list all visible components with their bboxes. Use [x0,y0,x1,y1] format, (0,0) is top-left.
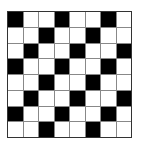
grid-cell-r4-c6 [101,75,116,90]
grid-cell-r6-c5 [86,107,101,122]
grid-cell-r7-c3 [55,122,70,137]
grid-cell-r6-c1 [24,107,39,122]
grid-cell-r4-c2 [39,75,54,90]
grid-cell-r3-c2 [39,59,54,74]
grid-cell-r6-c4 [70,107,85,122]
grid-cell-r0-c5 [86,12,101,27]
grid-cell-r3-c1 [24,59,39,74]
grid-cell-r1-c5 [86,28,101,43]
grid-cell-r0-c2 [39,12,54,27]
grid-cell-r1-c2 [39,28,54,43]
grid-cell-r4-c7 [117,75,132,90]
grid-cell-r2-c2 [39,44,54,59]
grid-cell-r3-c3 [55,59,70,74]
grid-cell-r2-c5 [86,44,101,59]
grid-cell-r2-c4 [70,44,85,59]
grid-cell-r6-c3 [55,107,70,122]
grid-cell-r3-c5 [86,59,101,74]
grid-cell-r7-c7 [117,122,132,137]
grid-cell-r2-c1 [24,44,39,59]
grid-cell-r3-c6 [101,59,116,74]
grid-cell-r1-c0 [8,28,23,43]
grid-cell-r6-c7 [117,107,132,122]
grid-cell-r0-c6 [101,12,116,27]
grid-cell-r2-c7 [117,44,132,59]
grid-cell-r1-c4 [70,28,85,43]
grid-cell-r7-c1 [24,122,39,137]
grid-cell-r2-c6 [101,44,116,59]
grid-cell-r0-c1 [24,12,39,27]
grid-cell-r4-c1 [24,75,39,90]
grid-cell-r7-c0 [8,122,23,137]
grid-cell-r7-c4 [70,122,85,137]
grid-cell-r2-c3 [55,44,70,59]
grid-cell-r5-c6 [101,91,116,106]
grid-cell-r0-c4 [70,12,85,27]
grid-cell-r0-c0 [8,12,23,27]
grid-cell-r7-c2 [39,122,54,137]
grid-cell-r2-c0 [8,44,23,59]
grid-cell-r6-c2 [39,107,54,122]
grid-cell-r3-c7 [117,59,132,74]
grid-cell-r1-c6 [101,28,116,43]
grid-cell-r5-c2 [39,91,54,106]
grid-cell-r4-c3 [55,75,70,90]
pattern-grid [7,11,132,138]
grid-cell-r4-c4 [70,75,85,90]
grid-cell-r0-c7 [117,12,132,27]
grid-cell-r0-c3 [55,12,70,27]
grid-cell-r5-c1 [24,91,39,106]
grid-cell-r5-c4 [70,91,85,106]
grid-cell-r1-c1 [24,28,39,43]
grid-cell-r3-c4 [70,59,85,74]
grid-cell-r1-c3 [55,28,70,43]
grid-cell-r7-c5 [86,122,101,137]
grid-cell-r1-c7 [117,28,132,43]
grid-cell-r5-c3 [55,91,70,106]
grid-cell-r4-c5 [86,75,101,90]
grid-cell-r6-c0 [8,107,23,122]
grid-cell-r3-c0 [8,59,23,74]
grid-cell-r4-c0 [8,75,23,90]
grid-cell-r5-c7 [117,91,132,106]
grid-cell-r5-c0 [8,91,23,106]
grid-cell-r6-c6 [101,107,116,122]
grid-cell-r7-c6 [101,122,116,137]
grid-cell-r5-c5 [86,91,101,106]
